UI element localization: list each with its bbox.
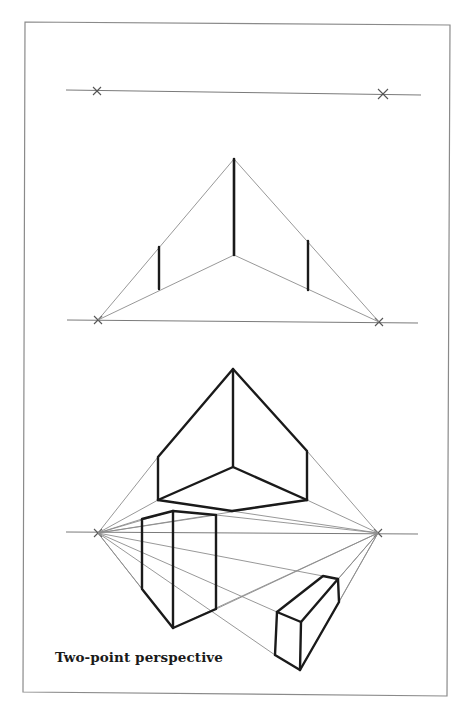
panel-horizon-vanishing-points <box>66 87 421 99</box>
horizon-line <box>67 320 418 323</box>
box-above-horizon <box>158 369 307 511</box>
guide-line <box>234 159 379 322</box>
vanishing-point-left-mark <box>93 87 101 95</box>
guide-line <box>98 255 234 320</box>
figure-frame <box>23 22 450 696</box>
horizon-line <box>66 90 421 95</box>
guide-line <box>234 255 379 322</box>
horizon-line <box>66 532 418 534</box>
panel-boxes <box>66 369 418 670</box>
panel-corner-construction <box>67 159 418 326</box>
tall-box-guides <box>98 511 378 628</box>
two-point-perspective-diagram <box>0 0 470 713</box>
guide-line <box>98 159 234 320</box>
tall-box-below-horizon <box>142 511 216 628</box>
low-box-below-horizon <box>275 576 339 670</box>
figure-caption: Two-point perspective <box>55 649 223 665</box>
